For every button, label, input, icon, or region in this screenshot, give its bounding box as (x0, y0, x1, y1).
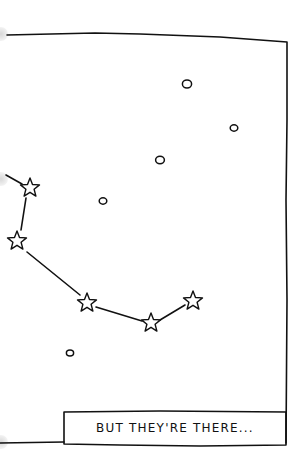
dim-star-circle-icon (99, 198, 107, 204)
constellation-star-icon (184, 291, 203, 309)
constellation-line (6, 175, 22, 184)
dim-star-circle-icon (156, 156, 165, 164)
constellation-star-icon (142, 313, 161, 331)
comic-panel-drawing (0, 0, 303, 467)
caption-text: BUT THEY'RE THERE... (64, 412, 286, 444)
constellation-star-icon (21, 178, 40, 196)
constellation-line (27, 252, 80, 295)
constellation-star-icon (8, 231, 27, 249)
constellation-line (160, 305, 185, 320)
dim-star-circle-icon (182, 80, 191, 88)
constellation-line (96, 307, 142, 321)
dim-star-circle-icon (230, 125, 238, 131)
panel-border (7, 33, 287, 443)
panel-bottom-border (0, 442, 64, 443)
constellation-line (21, 198, 26, 230)
dim-star-circle-icon (66, 350, 73, 356)
